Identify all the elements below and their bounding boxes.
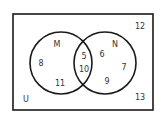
- intersection-5: 5: [81, 53, 86, 61]
- universe-rectangle: [13, 14, 153, 110]
- set-m-label: M: [54, 41, 61, 49]
- intersection-10: 10: [79, 66, 89, 74]
- outside-12: 12: [135, 23, 145, 31]
- m-only-8: 8: [38, 60, 43, 68]
- m-only-11: 11: [55, 80, 65, 88]
- n-only-7: 7: [121, 64, 126, 72]
- n-only-9: 9: [104, 78, 109, 86]
- outside-13: 13: [135, 94, 145, 102]
- universe-label: U: [23, 96, 29, 104]
- set-n-label: N: [112, 41, 118, 49]
- n-only-6: 6: [99, 51, 104, 59]
